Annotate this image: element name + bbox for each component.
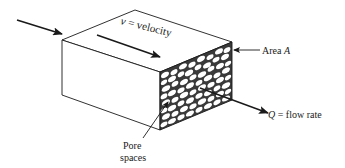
pore-label-line2: spaces	[120, 152, 146, 163]
flow-rate-label: Q = flow rate	[268, 109, 322, 120]
area-label: Area A	[262, 45, 291, 56]
pore-label-line1: Pore	[123, 140, 142, 151]
porous-flow-diagram: v = velocity Area A Q = flow rate Pore s…	[0, 0, 345, 168]
inflow-arrow	[17, 20, 62, 34]
